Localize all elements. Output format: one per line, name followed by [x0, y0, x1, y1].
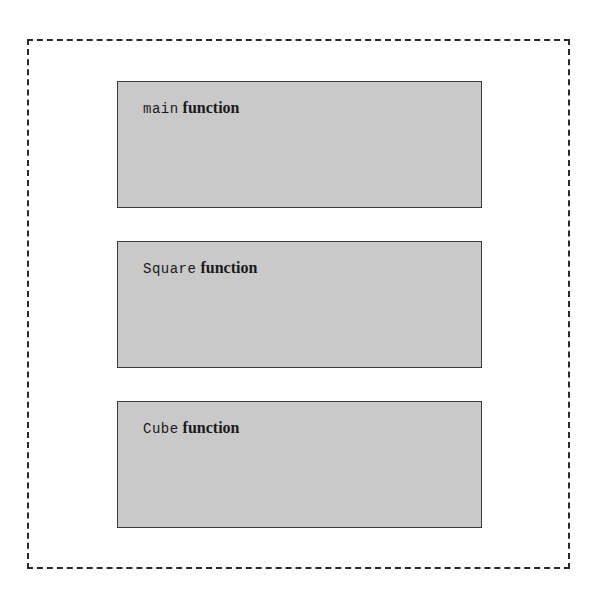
square-function-label: Square function — [143, 259, 257, 277]
function-name: main — [143, 101, 179, 117]
function-name: Square — [143, 261, 196, 277]
cube-function-label: Cube function — [143, 419, 240, 437]
cube-function-block: Cube function — [117, 401, 482, 528]
function-word: function — [183, 419, 240, 436]
square-function-block: Square function — [117, 241, 482, 368]
function-word: function — [200, 259, 257, 276]
main-function-label: main function — [143, 99, 240, 117]
function-word: function — [183, 99, 240, 116]
function-name: Cube — [143, 421, 179, 437]
main-function-block: main function — [117, 81, 482, 208]
